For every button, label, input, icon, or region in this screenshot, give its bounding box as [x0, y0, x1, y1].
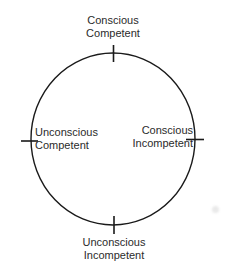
- node-label-line1: Conscious: [86, 14, 140, 27]
- node-label-conscious-incompetent: Conscious Incompetent: [132, 124, 193, 149]
- node-label-line1: Unconscious: [35, 126, 98, 139]
- node-label-unconscious-incompetent: Unconscious Incompetent: [83, 236, 146, 261]
- node-label-line2: Incompetent: [132, 137, 193, 150]
- node-label-unconscious-competent: Unconscious Competent: [35, 126, 98, 151]
- node-label-line2: Competent: [35, 139, 98, 152]
- node-label-line1: Unconscious: [83, 236, 146, 249]
- faint-artifact: [212, 206, 219, 213]
- node-label-line1: Conscious: [132, 124, 193, 137]
- node-label-conscious-competent: Conscious Competent: [86, 14, 140, 39]
- node-label-line2: Incompetent: [83, 249, 146, 262]
- competence-cycle-diagram: Conscious Competent Conscious Incompeten…: [0, 0, 226, 275]
- node-label-line2: Competent: [86, 27, 140, 40]
